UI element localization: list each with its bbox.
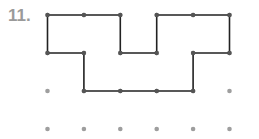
vertex-dot [82, 13, 86, 17]
vertex-dot [191, 13, 195, 17]
shape-outline [48, 15, 230, 91]
vertex-dot [155, 89, 159, 93]
vertex-dot [227, 13, 231, 17]
vertex-dot [191, 51, 195, 55]
grid-dot [227, 89, 232, 94]
vertex-dot [155, 13, 159, 17]
vertex-dot [191, 89, 195, 93]
vertex-dot [82, 89, 86, 93]
grid-dot [227, 127, 232, 132]
grid-dot [45, 127, 50, 132]
grid-dot [191, 127, 196, 132]
vertex-dot [45, 13, 49, 17]
grid-dot [154, 127, 159, 132]
vertex-dot [227, 51, 231, 55]
vertex-dot [155, 51, 159, 55]
vertex-dot [118, 89, 122, 93]
vertex-dot [118, 13, 122, 17]
vertex-dot [45, 51, 49, 55]
vertex-dot [82, 51, 86, 55]
grid-dot [45, 89, 50, 94]
grid-dot [118, 127, 123, 132]
grid-dots [45, 13, 232, 132]
dot-grid-diagram [0, 0, 259, 139]
vertex-dot [118, 51, 122, 55]
grid-dot [82, 127, 87, 132]
